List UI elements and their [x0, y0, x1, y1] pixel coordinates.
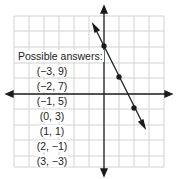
answers-title: Possible answers: — [17, 50, 104, 62]
answer-item: (3, −3) — [0, 155, 104, 167]
answer-item: (2, −1) — [0, 140, 104, 152]
answer-item: (−1, 5) — [0, 95, 104, 107]
answer-item: (0, 3) — [0, 110, 104, 122]
answer-item: (−2, 7) — [0, 80, 104, 92]
answer-item: (−3, 9) — [0, 65, 104, 77]
answer-item: (1, 1) — [0, 125, 104, 137]
